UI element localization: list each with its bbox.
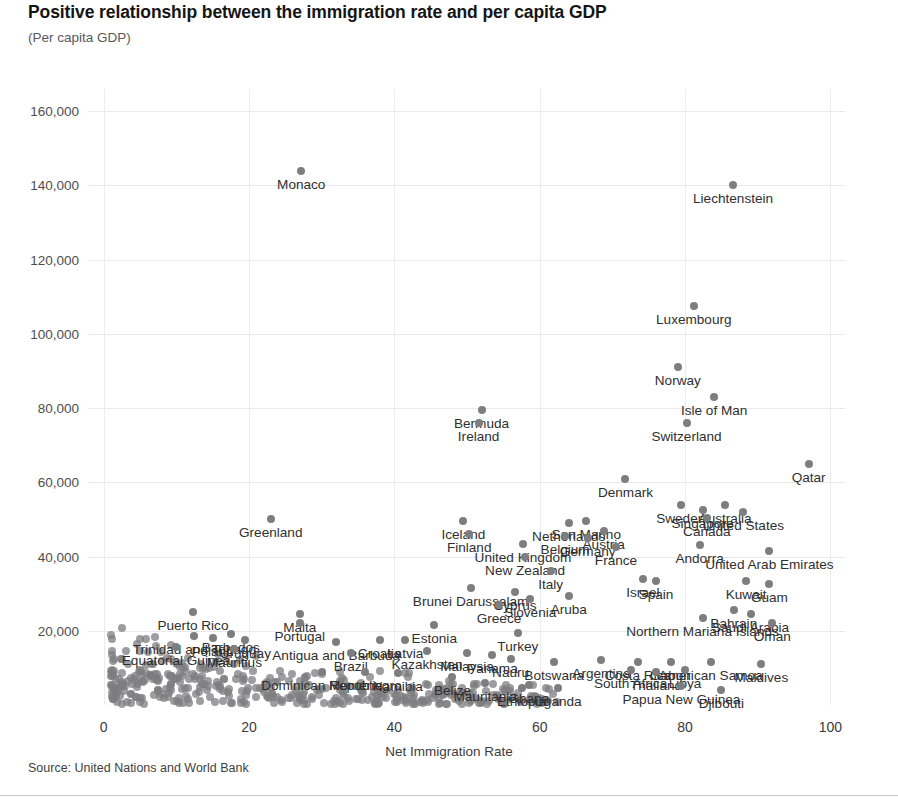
scatter-point[interactable] [703, 514, 711, 522]
y-axis-tick-label: 80,000 [0, 401, 79, 416]
scatter-point-label: Qatar [792, 471, 826, 485]
scatter-point[interactable] [481, 679, 489, 687]
scatter-point[interactable] [525, 681, 533, 689]
scatter-point[interactable] [699, 614, 707, 622]
scatter-point[interactable] [634, 658, 642, 666]
x-axis-tick-label: 20 [204, 719, 294, 735]
scatter-point[interactable] [652, 577, 660, 585]
scatter-point-label: Mauritius [207, 656, 262, 670]
scatter-point[interactable] [710, 393, 718, 401]
scatter-point[interactable] [757, 660, 765, 668]
scatter-point[interactable] [488, 651, 496, 659]
scatter-point[interactable] [600, 527, 608, 535]
scatter-point[interactable] [478, 406, 486, 414]
scatter-point[interactable] [683, 419, 691, 427]
scatter-point[interactable] [430, 621, 438, 629]
scatter-point [160, 694, 168, 702]
scatter-point[interactable] [584, 534, 592, 542]
scatter-point [358, 696, 366, 704]
scatter-point-label: Ireland [458, 430, 500, 444]
scatter-point[interactable] [521, 553, 529, 561]
scatter-point [382, 694, 390, 702]
scatter-point [192, 690, 200, 698]
scatter-point[interactable] [565, 592, 573, 600]
scatter-point[interactable] [475, 419, 483, 427]
y-axis-tick-label: 100,000 [0, 326, 79, 341]
scatter-point[interactable] [423, 647, 431, 655]
scatter-point [276, 667, 284, 675]
scatter-point[interactable] [296, 610, 304, 618]
scatter-point [320, 699, 328, 707]
scatter-point-label: Denmark [598, 486, 653, 500]
scatter-point[interactable] [677, 501, 685, 509]
scatter-point[interactable] [495, 601, 503, 609]
scatter-point [331, 700, 339, 708]
scatter-point[interactable] [652, 668, 660, 676]
scatter-point[interactable] [729, 181, 737, 189]
scatter-point[interactable] [681, 666, 689, 674]
scatter-point[interactable] [511, 588, 519, 596]
scatter-point [308, 695, 316, 703]
page-title: Positive relationship between the immigr… [28, 2, 878, 23]
scatter-point[interactable] [674, 363, 682, 371]
scatter-point[interactable] [582, 517, 590, 525]
scatter-point[interactable] [707, 658, 715, 666]
scatter-point-label: Turkey [497, 640, 538, 654]
scatter-point-label: Puerto Rico [157, 619, 228, 633]
scatter-point-label: Estonia [412, 632, 457, 646]
y-gridline [89, 111, 845, 112]
scatter-point-label: Namibia [373, 680, 423, 694]
scatter-point [108, 635, 116, 643]
scatter-point[interactable] [332, 638, 340, 646]
scatter-point[interactable] [297, 167, 305, 175]
scatter-point-label: Oman [754, 630, 791, 644]
scatter-point[interactable] [765, 547, 773, 555]
scatter-point[interactable] [765, 580, 773, 588]
scatter-point[interactable] [721, 501, 729, 509]
scatter-point [248, 676, 256, 684]
scatter-point[interactable] [459, 517, 467, 525]
scatter-point[interactable] [376, 636, 384, 644]
scatter-point[interactable] [518, 684, 526, 692]
scatter-point [473, 680, 481, 688]
scatter-point[interactable] [463, 649, 471, 657]
scatter-point[interactable] [507, 655, 515, 663]
scatter-point[interactable] [742, 577, 750, 585]
scatter-point[interactable] [514, 629, 522, 637]
scatter-point[interactable] [394, 669, 402, 677]
scatter-point[interactable] [667, 658, 675, 666]
scatter-point[interactable] [318, 668, 326, 676]
scatter-point[interactable] [227, 630, 235, 638]
scatter-point[interactable] [597, 656, 605, 664]
scatter-point [184, 684, 192, 692]
scatter-point-label: Maldives [735, 671, 789, 685]
scatter-point [109, 657, 117, 665]
scatter-point[interactable] [401, 636, 409, 644]
scatter-point[interactable] [747, 610, 755, 618]
scatter-point-label: Greenland [239, 526, 302, 540]
scatter-point[interactable] [347, 649, 355, 657]
scatter-point[interactable] [554, 684, 562, 692]
scatter-point[interactable] [467, 584, 475, 592]
scatter-point[interactable] [361, 668, 369, 676]
scatter-point[interactable] [565, 519, 573, 527]
scatter-point[interactable] [730, 606, 738, 614]
x-gridline [394, 89, 395, 705]
scatter-point[interactable] [696, 541, 704, 549]
scatter-point[interactable] [267, 515, 275, 523]
scatter-point[interactable] [547, 567, 555, 575]
y-axis-tick-label: 20,000 [0, 623, 79, 638]
scatter-point[interactable] [627, 666, 635, 674]
scatter-point [108, 647, 116, 655]
scatter-point [244, 684, 252, 692]
scatter-chart: Positive relationship between the immigr… [0, 0, 898, 810]
scatter-point[interactable] [805, 460, 813, 468]
scatter-point[interactable] [639, 575, 647, 583]
scatter-point[interactable] [690, 302, 698, 310]
scatter-point[interactable] [550, 658, 558, 666]
scatter-point[interactable] [190, 632, 198, 640]
scatter-point-label: Libya [669, 677, 702, 691]
y-axis-tick-label: 160,000 [0, 104, 79, 119]
scatter-point[interactable] [519, 540, 527, 548]
scatter-point[interactable] [189, 608, 197, 616]
